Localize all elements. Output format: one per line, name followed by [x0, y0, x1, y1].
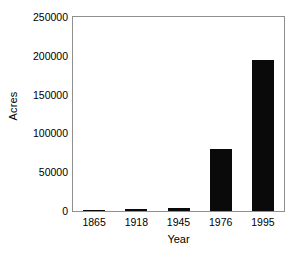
x-axis-tick-label: 1865: [73, 216, 115, 228]
bar-slot: [73, 17, 115, 211]
bar-slot: [242, 17, 284, 211]
bar[interactable]: [168, 208, 190, 211]
bars-container: [73, 17, 284, 211]
bar[interactable]: [210, 149, 232, 211]
y-axis-tick-label: 250000: [16, 12, 68, 22]
x-axis-tick-label: 1995: [242, 216, 284, 228]
x-axis-tick-labels: 18651918194519761995: [73, 216, 284, 232]
bar[interactable]: [83, 210, 105, 211]
x-axis-tick-label: 1945: [157, 216, 199, 228]
y-axis-tick-label: 50000: [16, 167, 68, 177]
x-axis-tick-label: 1918: [115, 216, 157, 228]
x-axis-tick-label: 1976: [200, 216, 242, 228]
bar-slot: [200, 17, 242, 211]
y-axis-tick-label: 0: [16, 206, 68, 216]
y-axis-tick-label: 100000: [16, 128, 68, 138]
bar[interactable]: [125, 209, 147, 211]
bar-slot: [157, 17, 199, 211]
bar-chart-figure: Acres 050000100000150000200000250000 186…: [0, 0, 302, 259]
y-axis-tick-label: 150000: [16, 90, 68, 100]
y-axis-tick-label: 200000: [16, 51, 68, 61]
x-axis-title: Year: [72, 233, 285, 245]
y-axis-tick-labels: 050000100000150000200000250000: [16, 0, 68, 259]
bar-slot: [115, 17, 157, 211]
bar[interactable]: [252, 60, 274, 211]
